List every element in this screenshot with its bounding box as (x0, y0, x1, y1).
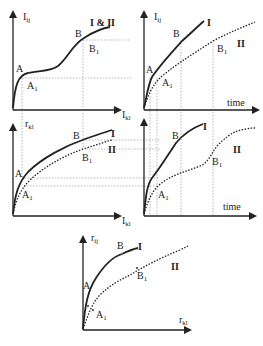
curve-I-label: I (138, 241, 142, 252)
point-A-marker (87, 305, 89, 307)
x-axis-label: time (223, 201, 241, 212)
x-axis-label: time (227, 97, 245, 108)
curve-II-label: II (233, 144, 241, 155)
point-A: A (83, 280, 91, 291)
point-B1: B1 (89, 43, 100, 56)
point-B: B (117, 240, 124, 251)
panel-top-left: Iij Ikl I & II A A1 B B1 (13, 11, 131, 122)
curve-II-label: II (237, 38, 245, 49)
y-axis-label: rkl (25, 118, 34, 131)
curve-II (13, 140, 112, 214)
point-A1: A1 (22, 189, 33, 202)
curve-I-and-II (13, 27, 110, 108)
y-axis-label: Iij (154, 11, 161, 24)
point-A1: A1 (162, 77, 173, 90)
curve-I (83, 248, 138, 329)
curve-I-label: I (203, 121, 207, 132)
point-A1: A1 (158, 189, 169, 202)
point-A1-marker (92, 309, 94, 311)
point-B1: B1 (212, 156, 223, 169)
panel-top-right: Iij time I II A A1 B B1 (144, 11, 258, 216)
point-B1: B1 (82, 152, 93, 165)
point-A1: A1 (27, 80, 38, 93)
curve-II-label: II (171, 261, 179, 272)
point-B1: B1 (137, 270, 148, 283)
point-B: B (73, 130, 80, 141)
point-A: A (15, 168, 23, 179)
point-B1: B1 (217, 43, 228, 56)
curve-II-label: II (108, 144, 116, 155)
x-axis-label: Ikl (122, 109, 131, 122)
diagram-canvas: Iij Ikl I & II A A1 B B1 Iij time I II A… (0, 0, 263, 346)
panel-middle-right: time I II A1 B B1 (144, 120, 255, 216)
x-axis-label: rkl (179, 314, 188, 327)
point-B: B (173, 28, 180, 39)
y-axis-label: Iij (23, 11, 30, 24)
point-B: B (75, 28, 82, 39)
curve-I-label: I (111, 128, 115, 139)
point-B1-marker (136, 267, 138, 269)
point-A: A (146, 64, 154, 75)
point-A: A (16, 63, 24, 74)
point-A1: A1 (96, 309, 107, 322)
point-B-marker (121, 253, 123, 255)
x-axis-label: Ikl (122, 215, 131, 228)
y-axis-label: rij (91, 232, 98, 245)
point-B: B (172, 130, 179, 141)
panel-middle-left: rkl Ikl I II A A1 B B1 (13, 110, 160, 228)
curve-I-label: I (207, 17, 211, 28)
panel-bottom: rij rkl I II A A1 B B1 (83, 232, 190, 330)
curve-label: I & II (90, 17, 115, 28)
guide-lines (22, 40, 131, 110)
curve-I (13, 130, 112, 214)
guide-lines (22, 110, 160, 186)
